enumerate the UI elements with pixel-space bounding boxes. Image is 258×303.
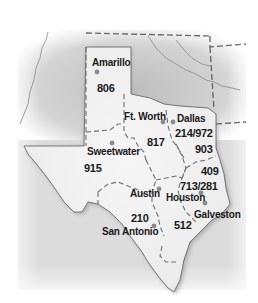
- city-label-san-antonio: San Antonio: [102, 226, 158, 237]
- city-label-sweetwater: Sweetwater: [87, 146, 140, 157]
- dot-sweetwater: [110, 141, 115, 146]
- dot-amarillo: [95, 70, 100, 75]
- area-code-409: 409: [201, 165, 219, 177]
- city-label-houston: Houston: [166, 192, 205, 203]
- area-code-903: 903: [195, 143, 213, 155]
- city-label-galveston: Galveston: [194, 209, 241, 220]
- area-code-512: 512: [174, 219, 192, 231]
- area-code-713-281: 713/281: [180, 180, 218, 192]
- area-code-806: 806: [97, 82, 115, 94]
- city-label-fort-worth: Ft. Worth: [124, 111, 166, 122]
- area-code-817: 817: [147, 136, 165, 148]
- map-canvas: Amarillo Ft. Worth Dallas Sweetwater Aus…: [0, 0, 258, 303]
- texas-area-code-map: Amarillo Ft. Worth Dallas Sweetwater Aus…: [0, 0, 258, 303]
- area-code-214-972: 214/972: [175, 127, 213, 139]
- city-label-austin: Austin: [130, 188, 160, 199]
- area-code-915: 915: [84, 162, 102, 174]
- dot-dallas: [171, 120, 176, 125]
- city-label-amarillo: Amarillo: [92, 57, 131, 68]
- area-code-210: 210: [131, 212, 149, 224]
- city-label-dallas: Dallas: [177, 113, 206, 124]
